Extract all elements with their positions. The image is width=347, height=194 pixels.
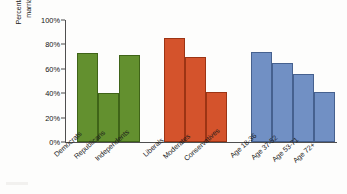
bar-chart-figure: Percentage saying same-sex marriage shou… [0, 0, 347, 194]
bar-republicans [98, 93, 119, 142]
bar-age-37-52 [272, 63, 293, 142]
y-axis-title-line-1: Percentage saying same-sex [14, 0, 24, 40]
y-tick-label-60: 60% [32, 64, 60, 73]
x-label-age-72-plus: Age 72+ [291, 140, 317, 165]
bar-liberals [164, 38, 185, 142]
bar-democrats [77, 53, 98, 142]
y-tick-label-40: 40% [32, 89, 60, 98]
scan-artifact [6, 182, 28, 185]
bar-age-53-71 [293, 74, 314, 142]
y-tick-label-100: 100% [32, 16, 60, 25]
bar-moderates [185, 57, 206, 142]
x-axis-line [65, 142, 337, 143]
y-tick-label-80: 80% [32, 40, 60, 49]
plot-area [65, 20, 337, 142]
bar-age-18-36 [251, 52, 272, 142]
bar-independents [119, 55, 140, 142]
y-tick-label-0: 0% [32, 138, 60, 147]
y-axis-tick-labels: 0% 20% 40% 60% 80% 100% [32, 0, 60, 194]
bar-age-72-plus [314, 92, 335, 142]
y-tick-label-20: 20% [32, 113, 60, 122]
bar-conservatives [206, 92, 227, 142]
